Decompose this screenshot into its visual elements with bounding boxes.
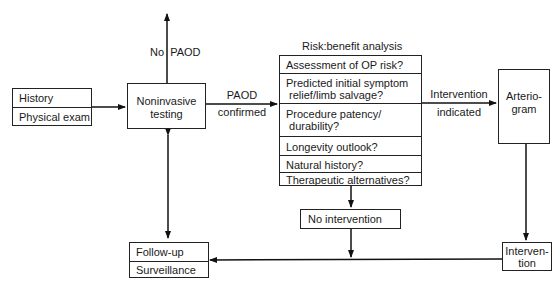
- paod-confirmed-label-1: PAOD: [215, 89, 269, 102]
- risk-item: Procedure patency/ durability?: [280, 103, 421, 136]
- surveillance-item: Surveillance: [130, 261, 208, 278]
- noninvasive-line-2: testing: [128, 108, 205, 121]
- arteriogram-box: Arterio- gram: [498, 69, 550, 144]
- intervention-box: Interven- tion: [502, 242, 552, 271]
- intervention-indicated-label-2: indicated: [424, 106, 494, 119]
- followup-box: Follow-up Surveillance: [129, 242, 209, 278]
- intervention-indicated-label-1: Intervention: [424, 88, 494, 101]
- history-item: History: [13, 89, 91, 107]
- physical-exam-item: Physical exam: [13, 107, 91, 126]
- risk-benefit-title: Risk:benefit analysis: [302, 40, 402, 53]
- noninvasive-line-1: Noninvasive: [128, 95, 205, 108]
- history-box: History Physical exam: [12, 88, 92, 126]
- risk-item: Natural history?: [280, 155, 421, 172]
- risk-benefit-box: Assessment of OP risk? Predicted initial…: [279, 55, 422, 186]
- followup-item: Follow-up: [130, 243, 208, 261]
- risk-item: Predicted initial symptom relief/limb sa…: [280, 73, 421, 103]
- arteriogram-line-2: gram: [499, 103, 549, 116]
- risk-item: Therapeutic alternatives?: [280, 172, 421, 186]
- paod-confirmed-label-2: confirmed: [212, 106, 272, 119]
- arteriogram-line-1: Arterio-: [499, 90, 549, 103]
- no-intervention-box: No intervention: [300, 209, 401, 229]
- intervention-line-2: tion: [503, 257, 551, 270]
- no-paod-label: No PAOD: [150, 46, 201, 59]
- risk-item: Assessment of OP risk?: [280, 56, 421, 73]
- noninvasive-testing-box: Noninvasive testing: [127, 83, 206, 129]
- risk-item: Longevity outlook?: [280, 136, 421, 155]
- arrow-intervention-to-followup: [210, 259, 502, 260]
- no-intervention-label: No intervention: [308, 213, 382, 226]
